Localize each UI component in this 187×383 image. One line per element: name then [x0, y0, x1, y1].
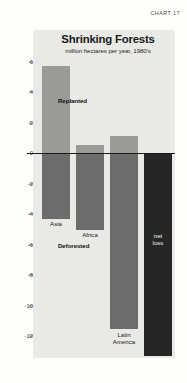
- bar-asia-deforested: [42, 153, 70, 219]
- category-label-latin-america-line2: America: [108, 338, 140, 345]
- bar-africa-deforested: [76, 153, 104, 230]
- category-label-asia: Asia: [42, 220, 70, 227]
- annotation-replanted: Replanted: [58, 97, 87, 104]
- bar-latin-america-deforested: [110, 153, 138, 329]
- category-label-africa: Africa: [76, 231, 104, 238]
- bar-asia-replanted: [42, 66, 70, 153]
- annotation-net-loss-line2: loss: [144, 239, 172, 246]
- chart-figure: CHART 17 Shrinking Forests million hecta…: [0, 0, 187, 383]
- annotation-deforested: Deforested: [58, 242, 89, 249]
- bar-africa-replanted: [76, 145, 104, 153]
- bar-latin-america-replanted: [110, 136, 138, 153]
- bar-net-loss: [144, 153, 172, 356]
- zero-baseline: [27, 153, 175, 154]
- bars-layer: [0, 0, 187, 383]
